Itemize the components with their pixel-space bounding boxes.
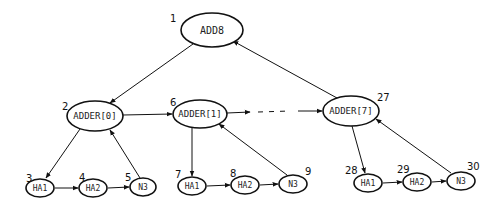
- adder-hierarchy-diagram: ADD81ADDER[0]2ADDER[1]6ADDER[7]27HA13HA2…: [0, 0, 502, 211]
- node-number: 27: [377, 92, 390, 103]
- node-label: HA1: [361, 179, 376, 188]
- node-number: 6: [170, 97, 176, 108]
- node-label: N3: [456, 177, 466, 186]
- node-number: 9: [305, 166, 311, 177]
- node-label: ADD8: [200, 25, 224, 36]
- node-ha2_7: HA229: [397, 164, 431, 191]
- node-number: 30: [467, 161, 480, 172]
- node-label: HA1: [185, 182, 200, 191]
- node-label: ADDER[0]: [73, 111, 116, 121]
- edge-n3_0-to-adder0: [110, 130, 140, 178]
- node-label: N3: [138, 183, 148, 192]
- node-adder7: ADDER[7]27: [323, 92, 390, 126]
- node-n3_7: N330: [447, 161, 480, 190]
- edge-adder0-to-adder1: [123, 114, 172, 115]
- node-number: 29: [397, 164, 410, 175]
- edge-add8-to-adder0: [110, 44, 193, 103]
- edge-ha1_1-to-ha2_1: [207, 185, 230, 186]
- node-add8: ADD81: [170, 13, 243, 47]
- node-number: 5: [125, 172, 131, 183]
- node-number: 4: [79, 172, 85, 183]
- node-ha2_0: HA24: [79, 172, 107, 197]
- node-ha1_0: HA13: [26, 173, 54, 197]
- node-adder0: ADDER[0]2: [62, 101, 123, 131]
- node-ha1_1: HA17: [175, 169, 206, 195]
- node-n3_0: N35: [125, 172, 156, 196]
- node-number: 1: [170, 13, 176, 24]
- edge-adder1-to-dots: [227, 112, 250, 113]
- edge-n3_7-to-adder7: [376, 119, 451, 173]
- node-label: HA2: [238, 181, 253, 190]
- node-label: ADDER[7]: [329, 106, 372, 116]
- node-number: 8: [230, 168, 236, 179]
- edge-ha2_1-to-n3_1: [260, 184, 278, 185]
- node-number: 28: [345, 165, 358, 176]
- edge-adder7-to-add8: [233, 41, 337, 98]
- node-number: 3: [26, 173, 32, 184]
- edge-ha2_7-to-n3_7: [432, 181, 446, 182]
- node-adder1: ADDER[1]6: [170, 97, 227, 128]
- node-label: HA2: [86, 184, 101, 193]
- edge-dots-to-dots2: [258, 111, 290, 112]
- edge-ha2_0-to-n3_0: [108, 187, 129, 188]
- node-n3_1: N39: [279, 166, 311, 193]
- edge-ha1_7-to-ha2_7: [383, 182, 402, 183]
- node-number: 7: [175, 169, 181, 180]
- node-ha2_1: HA28: [230, 168, 259, 194]
- node-number: 2: [62, 101, 68, 112]
- node-label: N3: [288, 180, 298, 189]
- node-label: HA2: [410, 178, 425, 187]
- nodes-layer: ADD81ADDER[0]2ADDER[1]6ADDER[7]27HA13HA2…: [26, 13, 480, 197]
- edge-adder0-to-ha1_0: [46, 129, 80, 178]
- node-label: HA1: [33, 184, 48, 193]
- node-label: ADDER[1]: [178, 109, 221, 119]
